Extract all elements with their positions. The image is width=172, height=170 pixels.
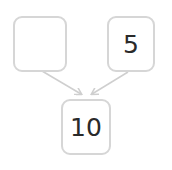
whole-value: 10: [70, 113, 102, 142]
part-box-right: 5: [107, 16, 155, 72]
whole-box: 10: [61, 99, 111, 155]
part-right-value: 5: [123, 30, 139, 59]
part-box-left[interactable]: [13, 16, 67, 72]
arrow-right-to-whole: [92, 72, 128, 94]
arrow-left-to-whole: [42, 71, 81, 94]
